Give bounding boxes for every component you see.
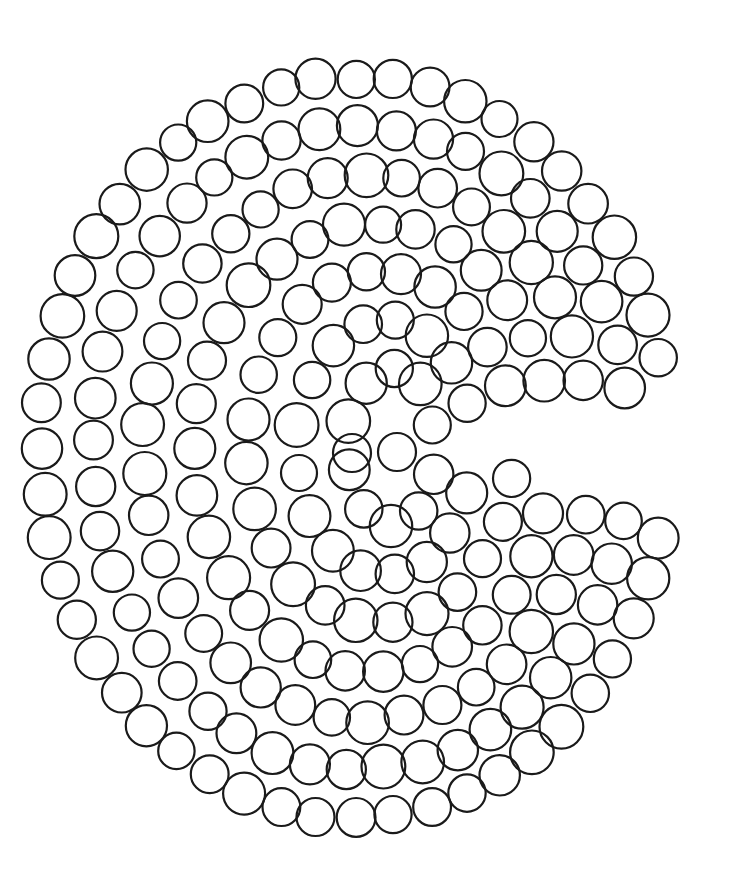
circle-outline (259, 319, 296, 356)
circle-outline (160, 125, 196, 161)
circle-outline (345, 154, 389, 198)
circle-outline (81, 512, 119, 550)
circle-outline (123, 452, 166, 495)
circle-outline (401, 741, 444, 784)
circle-outline (348, 253, 385, 290)
circle-outline (449, 385, 486, 422)
circle-outline (363, 651, 403, 691)
circle-outline (329, 449, 370, 490)
circle-outline (74, 214, 118, 258)
circle-outline (314, 699, 350, 735)
circle-outline (501, 686, 544, 729)
circle-outline (217, 713, 257, 753)
circle-outline (144, 323, 180, 359)
circle-outline (338, 61, 375, 98)
circle-outline (511, 179, 550, 218)
circle-outline (28, 338, 69, 379)
circle-outline (102, 673, 142, 713)
circle-outline (290, 744, 330, 784)
circle-outline (406, 315, 448, 357)
circle-outline (83, 332, 123, 372)
circle-outline (362, 745, 406, 789)
circle-outline (592, 544, 632, 584)
circle-outline (377, 111, 416, 150)
circle-outline (58, 601, 96, 639)
circle-outline (188, 342, 226, 380)
circle-outline (263, 788, 301, 826)
circle-outline (207, 556, 250, 599)
circle-outline (523, 360, 565, 402)
circle-outline (578, 585, 617, 624)
circle-outline (423, 686, 461, 724)
circle-outline (414, 266, 455, 307)
circle-outline (297, 798, 335, 836)
circle-outline (74, 421, 113, 460)
circle-outline (289, 495, 331, 537)
circle-outline (114, 595, 150, 631)
circle-outline (142, 541, 179, 578)
circle-outline (480, 152, 524, 196)
circle-outline (299, 108, 341, 150)
circle-outline (100, 184, 141, 225)
circle-outline (594, 640, 631, 677)
circle-outline (510, 731, 554, 775)
circle-outline (308, 158, 348, 198)
circles-group (22, 59, 679, 837)
circle-outline (55, 255, 96, 296)
circle-outline (204, 302, 245, 343)
circle-outline (260, 618, 303, 661)
circle-outline (41, 294, 85, 338)
circle-outline (76, 467, 115, 506)
circle-outline (24, 473, 67, 516)
circle-outline (337, 105, 378, 146)
circle-outline (540, 705, 584, 749)
circle-outline (615, 258, 653, 296)
circle-outline (534, 276, 576, 318)
circle-outline (447, 133, 484, 170)
circle-outline (252, 529, 291, 568)
circle-outline (638, 518, 679, 559)
circle-outline (485, 365, 526, 406)
circle-outline (212, 215, 249, 252)
circle-outline (188, 516, 230, 558)
circle-outline (414, 407, 451, 444)
circle-outline (567, 496, 605, 534)
circle-outline (140, 216, 180, 256)
circle-outline (92, 551, 133, 592)
circle-outline (75, 378, 116, 419)
circle-outline (121, 403, 164, 446)
circle-outline (406, 592, 449, 635)
circle-outline (160, 282, 197, 319)
circle-outline (42, 562, 79, 599)
circle-outline (183, 244, 221, 282)
circle-outline (129, 496, 168, 535)
circle-outline (337, 798, 376, 837)
circle-outline (444, 80, 486, 122)
circle-outline (439, 573, 477, 611)
circle-outline (327, 399, 371, 443)
circle-outline (327, 750, 366, 789)
circle-outline (75, 637, 118, 680)
circle-outline (605, 503, 642, 540)
circle-outline (174, 428, 215, 469)
circle-outline (463, 606, 501, 644)
circle-outline (117, 252, 153, 288)
circle-outline (470, 709, 512, 751)
circle-outline (482, 101, 518, 137)
circle-outline (581, 281, 623, 323)
circle-outline (493, 460, 530, 497)
circle-outline (537, 211, 578, 252)
circle-outline (627, 294, 670, 337)
circle-outline (159, 662, 197, 700)
circle-outline (396, 210, 434, 248)
circle-outline (414, 455, 453, 494)
circle-outline (554, 535, 594, 575)
circle-outline (564, 361, 603, 400)
circle-outline (295, 641, 332, 678)
circle-spiral-illustration (0, 0, 738, 880)
circle-outline (604, 368, 645, 409)
circle-outline (453, 189, 490, 226)
circle-outline (241, 357, 277, 393)
circle-outline (551, 315, 593, 357)
circle-outline (402, 646, 438, 682)
